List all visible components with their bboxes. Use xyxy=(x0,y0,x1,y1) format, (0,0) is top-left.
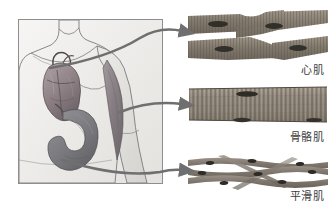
skeletal-nucleus xyxy=(306,118,322,122)
skeletal-muscle-micrograph xyxy=(188,84,328,126)
cardiac-nucleus xyxy=(265,23,283,29)
cardiac-nucleus xyxy=(215,46,234,52)
muscle-tissue-figure: 心肌 xyxy=(0,0,331,208)
cardiac-nucleus xyxy=(289,45,307,51)
skeletal-muscle-label: 骨骼肌 xyxy=(248,131,324,144)
anatomy-illustration xyxy=(19,20,162,183)
cardiac-muscle-label: 心肌 xyxy=(248,64,324,77)
skeletal-fiber-band xyxy=(189,87,327,122)
smooth-muscle-micrograph xyxy=(188,154,328,191)
anatomy-panel xyxy=(18,19,163,184)
cardiac-muscle-micrograph xyxy=(188,10,328,62)
skeletal-nucleus xyxy=(236,91,258,97)
cardiac-nucleus xyxy=(208,21,228,27)
skeletal-nucleus xyxy=(233,118,251,122)
smooth-muscle-label: 平滑肌 xyxy=(248,190,324,203)
